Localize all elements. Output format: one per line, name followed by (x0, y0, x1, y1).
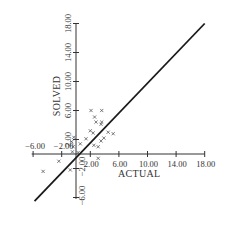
data-point (89, 109, 92, 112)
y-tick-label: −2.00 (77, 157, 87, 177)
data-point (112, 132, 115, 135)
data-point (99, 139, 102, 142)
data-point (42, 170, 45, 173)
data-point (92, 131, 95, 134)
data-point (102, 136, 105, 139)
y-tick-label: 10.00 (63, 72, 73, 91)
x-tick-label: 18.00 (196, 159, 215, 169)
x-tick-label: −6.00 (25, 141, 45, 151)
data-point (89, 129, 92, 132)
data-point (92, 144, 95, 147)
data-point (57, 160, 60, 163)
data-point (100, 109, 103, 112)
x-axis: −6.00−2.002.006.0010.0014.0018.00 (25, 141, 215, 169)
y-tick-label: −6.00 (77, 186, 87, 206)
x-axis-title: ACTUAL (118, 168, 160, 179)
data-point (84, 137, 87, 140)
scatter-chart: −6.00−2.002.006.0010.0014.0018.00 −6.00−… (0, 0, 227, 225)
y-tick-label: 14.00 (63, 43, 73, 62)
y-tick-label: 2.00 (63, 132, 73, 147)
data-point (94, 121, 97, 124)
data-point (93, 115, 96, 118)
data-point (107, 131, 110, 134)
data-point (69, 168, 72, 171)
y-tick-label: 6.00 (63, 103, 73, 118)
data-point (79, 142, 82, 145)
y-axis: −6.00−2.002.006.0010.0014.0018.00 (63, 14, 87, 205)
y-tick-label: 18.00 (63, 14, 73, 33)
data-point (97, 145, 100, 148)
x-tick-label: 14.00 (168, 159, 187, 169)
y-axis-title: SOLVED (51, 76, 62, 116)
